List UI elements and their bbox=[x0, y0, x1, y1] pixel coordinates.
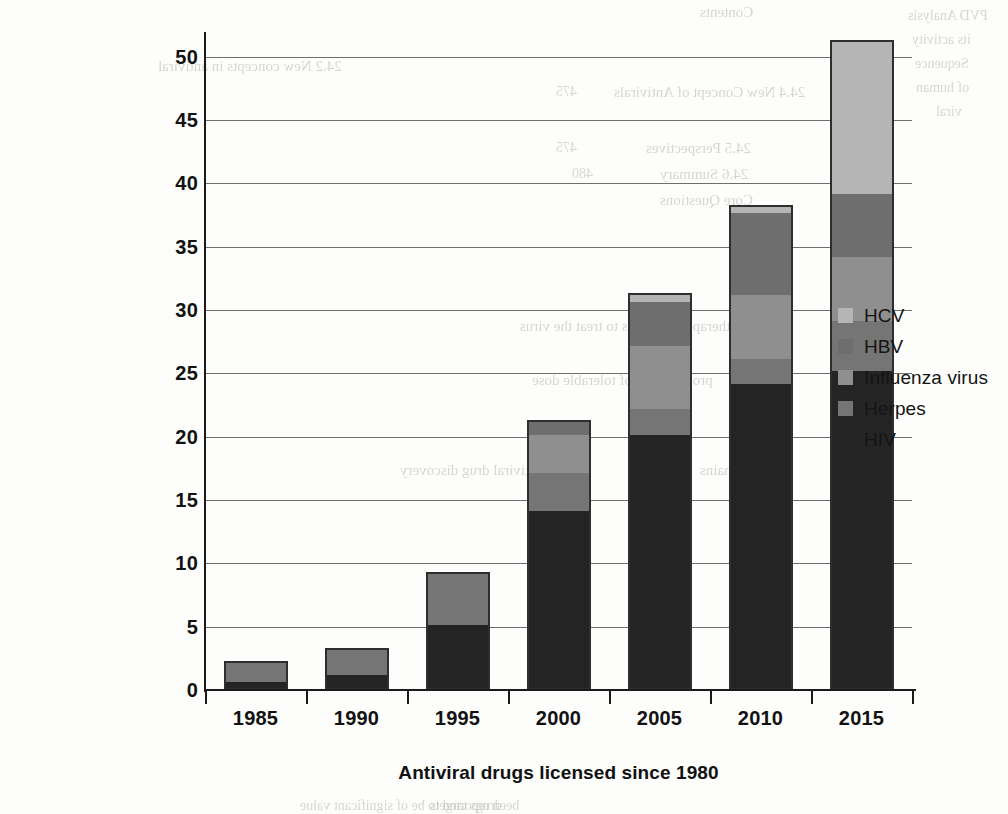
y-tick-label-10: 10 bbox=[175, 552, 198, 575]
bar-segment-2000-influenza-virus[interactable] bbox=[529, 435, 589, 473]
x-tick-label-2000: 2000 bbox=[514, 707, 604, 730]
legend-item-hcv[interactable]: HCV bbox=[838, 300, 1008, 331]
gridline-25 bbox=[205, 373, 912, 374]
y-tick-label-30: 30 bbox=[175, 299, 198, 322]
y-tick-label-45: 45 bbox=[175, 109, 198, 132]
x-tick-5 bbox=[710, 691, 712, 704]
bar-stack-1990[interactable] bbox=[325, 648, 389, 690]
bar-segment-1990-hiv[interactable] bbox=[327, 675, 387, 688]
bar-segment-1995-herpes[interactable] bbox=[428, 574, 488, 625]
y-tick-label-40: 40 bbox=[175, 172, 198, 195]
bar-stack-1985[interactable] bbox=[224, 661, 288, 690]
x-tick-6 bbox=[811, 691, 813, 704]
x-tick-label-1990: 1990 bbox=[312, 707, 402, 730]
x-tick-7 bbox=[912, 691, 914, 704]
chart-root: Contents24.4 New Concept of Antivirals47… bbox=[0, 0, 1008, 814]
x-tick-0 bbox=[205, 691, 207, 704]
bar-segment-2015-hbv[interactable] bbox=[832, 194, 892, 257]
gridline-30 bbox=[205, 310, 912, 311]
gridline-35 bbox=[205, 247, 912, 248]
bar-segment-1990-herpes[interactable] bbox=[327, 650, 387, 675]
bar-segment-2005-influenza-virus[interactable] bbox=[630, 346, 690, 409]
bar-segment-1985-hiv[interactable] bbox=[226, 682, 286, 688]
legend-item-herpes[interactable]: Herpes bbox=[838, 393, 1008, 424]
page-bleed-text-0: Contents bbox=[700, 4, 753, 21]
bar-segment-2010-influenza-virus[interactable] bbox=[731, 295, 791, 358]
bar-segment-2005-herpes[interactable] bbox=[630, 409, 690, 434]
legend-item-hiv[interactable]: HIV bbox=[838, 424, 1008, 455]
chart-legend: HCVHBVInfluenza virusHerpesHIV bbox=[838, 300, 1008, 455]
legend-swatch-icon bbox=[838, 339, 853, 354]
x-axis-line bbox=[204, 689, 916, 691]
legend-label: HBV bbox=[864, 336, 903, 358]
page-bleed-text-8: PVD Analysis bbox=[908, 8, 988, 24]
y-axis-line bbox=[204, 32, 206, 692]
x-tick-label-2005: 2005 bbox=[615, 707, 705, 730]
y-tick-label-20: 20 bbox=[175, 425, 198, 448]
page-bleed-text-9: its activity bbox=[912, 32, 971, 48]
bar-segment-2010-hiv[interactable] bbox=[731, 384, 791, 688]
bar-segment-2010-hbv[interactable] bbox=[731, 213, 791, 295]
y-tick-label-50: 50 bbox=[175, 45, 198, 68]
page-bleed-text-19: been reported to be of significant value bbox=[300, 798, 519, 814]
page-bleed-text-12: viral bbox=[936, 104, 962, 120]
x-tick-1 bbox=[306, 691, 308, 704]
legend-swatch-icon bbox=[838, 401, 853, 416]
y-tick-label-35: 35 bbox=[175, 235, 198, 258]
legend-label: Influenza virus bbox=[864, 367, 988, 389]
bar-segment-2015-hcv[interactable] bbox=[832, 42, 892, 194]
bar-segment-2005-hbv[interactable] bbox=[630, 302, 690, 346]
x-tick-label-2015: 2015 bbox=[817, 707, 907, 730]
plot-area bbox=[205, 44, 912, 690]
legend-label: Herpes bbox=[864, 398, 926, 420]
y-tick-label-5: 5 bbox=[187, 615, 198, 638]
gridline-40 bbox=[205, 183, 912, 184]
y-tick-label-15: 15 bbox=[175, 489, 198, 512]
legend-swatch-icon bbox=[838, 432, 853, 447]
page-bleed-text-11: of human bbox=[916, 80, 969, 96]
legend-item-influenza-virus[interactable]: Influenza virus bbox=[838, 362, 1008, 393]
x-axis-title: Antiviral drugs licensed since 1980 bbox=[205, 762, 912, 784]
gridline-50 bbox=[205, 57, 912, 58]
bar-stack-2000[interactable] bbox=[527, 420, 591, 690]
bar-segment-2010-herpes[interactable] bbox=[731, 359, 791, 384]
x-tick-4 bbox=[609, 691, 611, 704]
legend-swatch-icon bbox=[838, 370, 853, 385]
bar-stack-1995[interactable] bbox=[426, 572, 490, 690]
bar-segment-2000-hiv[interactable] bbox=[529, 511, 589, 688]
gridline-45 bbox=[205, 120, 912, 121]
bar-segment-1995-hiv[interactable] bbox=[428, 625, 488, 688]
y-tick-label-0: 0 bbox=[187, 679, 198, 702]
page-bleed-text-10: Sequence bbox=[915, 56, 969, 72]
bar-segment-1985-herpes[interactable] bbox=[226, 663, 286, 682]
bar-segment-2005-hiv[interactable] bbox=[630, 435, 690, 688]
bar-stack-2010[interactable] bbox=[729, 205, 793, 690]
x-tick-2 bbox=[407, 691, 409, 704]
legend-swatch-icon bbox=[838, 308, 853, 323]
x-tick-label-1995: 1995 bbox=[413, 707, 503, 730]
bar-stack-2005[interactable] bbox=[628, 293, 692, 690]
legend-label: HIV bbox=[864, 429, 896, 451]
x-tick-3 bbox=[508, 691, 510, 704]
bar-segment-2000-herpes[interactable] bbox=[529, 473, 589, 511]
legend-label: HCV bbox=[864, 305, 904, 327]
x-tick-label-1985: 1985 bbox=[211, 707, 301, 730]
page-bleed-text-18: drugs targets bbox=[430, 798, 502, 814]
x-tick-label-2010: 2010 bbox=[716, 707, 806, 730]
bar-segment-2000-hbv[interactable] bbox=[529, 422, 589, 435]
y-axis-tick-labels: 05101520253035404550 bbox=[150, 0, 198, 814]
y-tick-label-25: 25 bbox=[175, 362, 198, 385]
legend-item-hbv[interactable]: HBV bbox=[838, 331, 1008, 362]
